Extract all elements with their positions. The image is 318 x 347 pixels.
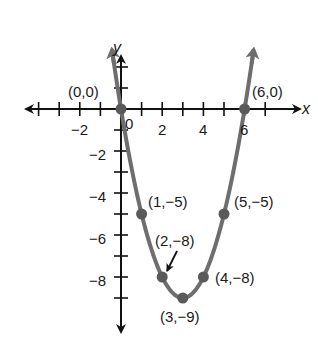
parabola-chart: x y −2 0 2 4 6 −2 −4 −6 −8 (0,0) (6,0) (… [0,0,318,347]
point-label-1-neg5: (1,−5) [148,193,188,210]
data-point [239,104,250,115]
x-tick-label: 0 [125,115,133,132]
curve-arrowhead-right [252,49,254,63]
point-label-3-neg9: (3,−9) [160,308,200,325]
data-point [219,209,230,220]
parabola-curve [112,52,253,298]
x-axis-label: x [301,100,311,117]
x-tick-label: −2 [71,121,88,138]
point-label-4-neg8: (4,−8) [215,269,255,286]
y-tick-label: −8 [89,272,106,289]
data-point [157,272,168,283]
y-tick-label: −6 [89,230,106,247]
point-label-0-0: (0,0) [68,83,99,100]
y-tick-label: −2 [89,146,106,163]
point-label-6-0: (6,0) [252,83,283,100]
y-tick-label: −4 [89,188,106,205]
data-point [177,293,188,304]
data-point [116,104,127,115]
data-point [198,272,209,283]
point-label-2-neg8: (2,−8) [155,232,195,249]
x-tick-label: 6 [240,121,248,138]
annotation-arrow [167,251,177,271]
y-axis-label: y [112,39,122,56]
x-tick-label: 4 [199,121,207,138]
x-tick-label: 2 [158,121,166,138]
point-label-5-neg5: (5,−5) [234,193,274,210]
data-point [136,209,147,220]
